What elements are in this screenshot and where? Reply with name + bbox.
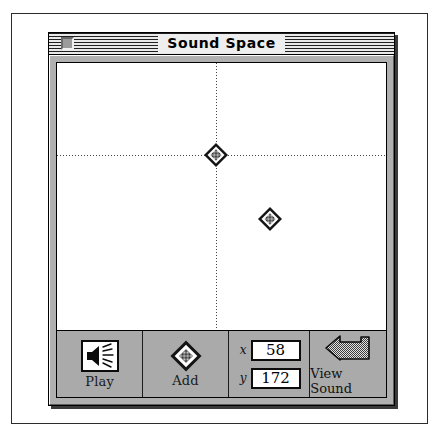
window-title: Sound Space bbox=[49, 35, 394, 51]
y-coordinate-input[interactable] bbox=[251, 368, 301, 389]
window-titlebar[interactable]: Sound Space bbox=[49, 33, 394, 55]
back-arrow-icon bbox=[323, 333, 373, 365]
add-button[interactable]: Add bbox=[142, 331, 227, 397]
play-button-label: Play bbox=[85, 374, 114, 389]
x-axis-label: x bbox=[238, 343, 247, 357]
speaker-icon bbox=[81, 340, 119, 372]
sound-space-window: Sound Space bbox=[48, 32, 395, 406]
view-sound-label: View Sound bbox=[310, 366, 386, 396]
window-body: Play Add x bbox=[49, 55, 394, 405]
view-sound-button[interactable]: View Sound bbox=[309, 331, 386, 397]
sound-point-selected[interactable] bbox=[203, 142, 229, 168]
y-axis-label: y bbox=[238, 371, 247, 385]
sound-space-canvas[interactable] bbox=[57, 63, 386, 331]
tool-palette: Play Add x bbox=[57, 331, 386, 397]
x-coordinate-row: x bbox=[238, 340, 301, 361]
window-title-text: Sound Space bbox=[158, 34, 284, 53]
x-coordinate-input[interactable] bbox=[251, 340, 301, 361]
y-coordinate-row: y bbox=[238, 368, 301, 389]
diamond-icon bbox=[171, 341, 201, 371]
play-button[interactable]: Play bbox=[57, 331, 142, 397]
sound-point[interactable] bbox=[257, 206, 283, 232]
window-content-frame: Play Add x bbox=[56, 62, 387, 398]
coordinate-fields: x y bbox=[228, 331, 310, 397]
add-button-label: Add bbox=[172, 373, 199, 388]
crosshair-vertical bbox=[216, 63, 217, 330]
